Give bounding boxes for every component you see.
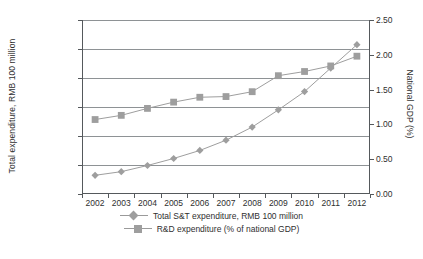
y-axis-right-label: 0.00 (376, 190, 393, 199)
x-axis-label: 2012 (337, 199, 377, 208)
x-axis-tickmark (134, 194, 135, 198)
data-point-square (196, 94, 203, 101)
y-axis-right-label: 2.50 (376, 16, 393, 25)
x-axis-tickmark (318, 194, 319, 198)
data-point-diamond (118, 168, 125, 175)
x-axis-tickmark (265, 194, 266, 198)
x-axis-tickmark (213, 194, 214, 198)
data-point-square (354, 53, 361, 60)
y-axis-right-title: National GDP (%) (405, 44, 415, 164)
data-point-square (223, 93, 230, 100)
series-markers-total-st-expenditure (91, 41, 360, 179)
y-axis-right-tickmark (370, 20, 374, 21)
y-axis-right-label: 1.50 (376, 86, 393, 95)
legend-label: R&D expenditure (% of national GDP) (157, 224, 300, 234)
legend-item-total-st-expenditure: Total S&T expenditure, RMB 100 million (120, 211, 303, 221)
x-axis-tickmark (82, 194, 83, 198)
legend-item-rd-percent-gdp: R&D expenditure (% of national GDP) (124, 224, 300, 234)
square-marker-icon (124, 224, 152, 234)
y-axis-left-title: Total expenditure, RMB 100 million (7, 31, 17, 181)
data-point-square (92, 116, 99, 123)
diamond-marker-icon (120, 211, 148, 221)
data-point-diamond (144, 162, 151, 169)
legend-label: Total S&T expenditure, RMB 100 million (153, 211, 303, 221)
y-axis-right-label: 2.00 (376, 51, 393, 60)
data-point-square (301, 68, 308, 75)
data-point-square (118, 112, 125, 119)
chart-legend: Total S&T expenditure, RMB 100 million R… (0, 211, 423, 234)
data-point-diamond (249, 123, 256, 130)
data-point-square (275, 72, 282, 79)
y-axis-right-tickmark (370, 124, 374, 125)
data-point-diamond (222, 137, 229, 144)
data-point-diamond (196, 147, 203, 154)
x-axis-tickmark (239, 194, 240, 198)
y-axis-right-label: 1.00 (376, 120, 393, 129)
data-point-diamond (275, 106, 282, 113)
x-axis-tickmark (370, 194, 371, 198)
data-point-square (144, 105, 151, 112)
y-axis-right-tickmark (370, 55, 374, 56)
series-layer (82, 20, 370, 194)
series-line-total-st-expenditure (95, 45, 357, 176)
data-point-square (249, 88, 256, 95)
chart-figure: Total expenditure, RMB 100 million Natio… (0, 0, 423, 259)
data-point-diamond (170, 155, 177, 162)
data-point-diamond (91, 172, 98, 179)
y-axis-right-label: 0.50 (376, 155, 393, 164)
data-point-square (170, 99, 177, 106)
x-axis-tickmark (161, 194, 162, 198)
x-axis-tickmark (187, 194, 188, 198)
y-axis-right-tickmark (370, 159, 374, 160)
x-axis-tickmark (108, 194, 109, 198)
x-axis-tickmark (344, 194, 345, 198)
series-line-rd-percent-gdp (95, 56, 357, 119)
x-axis-tickmark (291, 194, 292, 198)
y-axis-right-tickmark (370, 90, 374, 91)
data-point-square (327, 63, 334, 70)
